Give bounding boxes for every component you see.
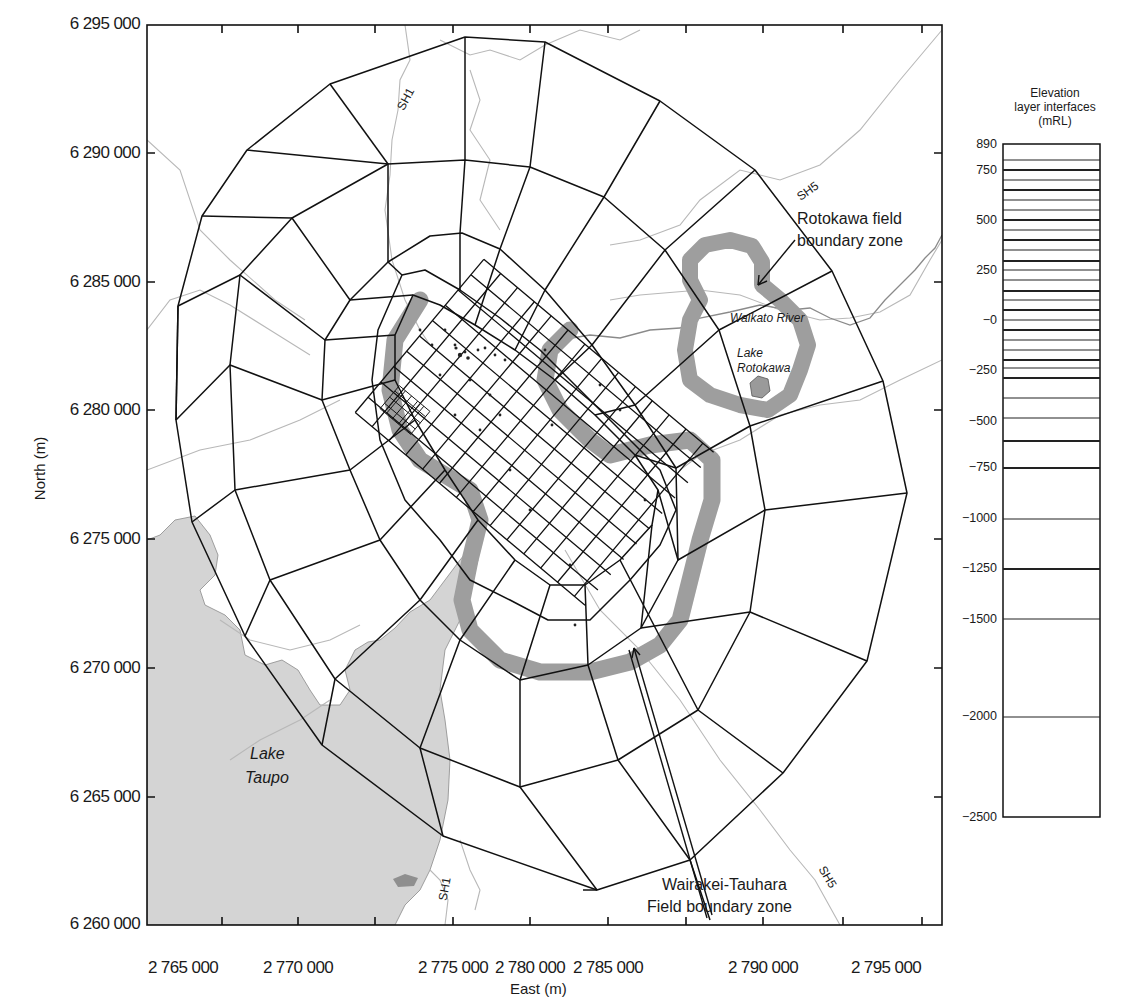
lake-rotokawa <box>750 376 770 398</box>
elevation-tick-label: −500 <box>969 414 997 428</box>
lake-taupo-label: Lake <box>250 745 285 763</box>
y-axis-title: North (m) <box>31 424 48 514</box>
elevation-tick-label: −1500 <box>962 612 997 626</box>
rotokawa-zone-label: boundary zone <box>797 232 903 250</box>
annotation-arrows <box>629 240 795 918</box>
lake-taupo-label: Taupo <box>245 769 289 787</box>
y-tick-label: 6 270 000 <box>70 658 140 678</box>
elevation-tick-label: −0 <box>983 313 997 327</box>
y-tick-label: 6 290 000 <box>70 143 140 163</box>
x-tick-label: 2 780 000 <box>495 958 565 978</box>
model-grid-map <box>0 0 1121 1003</box>
x-tick-label: 2 795 000 <box>851 958 921 978</box>
x-axis-title: East (m) <box>510 980 567 997</box>
elevation-title: Elevation layer interfaces (mRL) <box>1000 86 1110 128</box>
elevation-title-line: Elevation <box>1000 86 1110 100</box>
elevation-tick-label: −1250 <box>962 561 997 575</box>
y-tick-label: 6 280 000 <box>70 400 140 420</box>
x-tick-label: 2 765 000 <box>148 958 218 978</box>
y-tick-label: 6 285 000 <box>70 272 140 292</box>
elevation-title-line: (mRL) <box>1000 114 1110 128</box>
lake-rotokawa-label: Rotokawa <box>737 361 790 375</box>
y-tick-label: 6 265 000 <box>70 787 140 807</box>
elevation-tick-label: 750 <box>976 163 997 177</box>
wairakei-zone-label: Field boundary zone <box>647 898 792 916</box>
lake-taupo <box>147 516 478 925</box>
wairakei-zone-label: Wairakei-Tauhara <box>662 876 787 894</box>
elevation-tick-label: −2000 <box>962 709 997 723</box>
elevation-tick-label: −750 <box>969 460 997 474</box>
rotokawa-zone-label: Rotokawa field <box>797 210 902 228</box>
elevation-tick-label: 890 <box>976 137 997 151</box>
x-tick-label: 2 790 000 <box>728 958 798 978</box>
elevation-tick-label: 250 <box>976 263 997 277</box>
elevation-tick-label: −1000 <box>962 511 997 525</box>
elevation-tick-label: −250 <box>969 363 997 377</box>
y-tick-label: 6 260 000 <box>70 914 140 934</box>
elevation-tick-label: 500 <box>976 213 997 227</box>
x-tick-label: 2 785 000 <box>573 958 643 978</box>
x-tick-label: 2 770 000 <box>263 958 333 978</box>
elevation-tick-label: −2500 <box>962 810 997 824</box>
elevation-title-line: layer interfaces <box>1000 100 1110 114</box>
y-tick-label: 6 295 000 <box>70 14 140 34</box>
lake-rotokawa-label: Lake <box>737 346 763 360</box>
waikato-river-label: Waikato River <box>730 311 804 325</box>
x-tick-label: 2 775 000 <box>418 958 488 978</box>
y-tick-label: 6 275 000 <box>70 529 140 549</box>
